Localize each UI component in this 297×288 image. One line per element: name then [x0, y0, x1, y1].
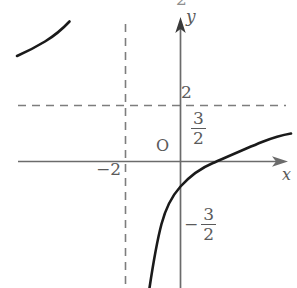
plot-canvas	[0, 0, 297, 288]
y-tick-label-two: 2	[181, 84, 192, 101]
x-axis-label: x	[282, 167, 291, 183]
function-graph-figure: 2 y x O −2 2 3 2 − 3 2	[0, 0, 297, 288]
curve-left-branch	[17, 22, 70, 57]
x-tick-label-negative-two: −2	[96, 161, 121, 178]
x-intercept-fraction-label: 3 2	[188, 110, 206, 147]
origin-label: O	[156, 138, 169, 154]
y-intercept-fraction-label: − 3 2	[184, 206, 216, 243]
curve-right-branch	[150, 134, 292, 288]
y-intercept-fraction-numerator: 3	[201, 206, 216, 224]
y-axis-label: y	[186, 8, 196, 25]
y-intercept-fraction-denominator: 2	[201, 225, 216, 243]
y-intercept-fraction-stack: 3 2	[201, 206, 216, 243]
y-intercept-fraction-sign: −	[184, 216, 198, 233]
x-intercept-fraction-denominator: 2	[191, 129, 206, 147]
x-intercept-fraction-numerator: 3	[191, 110, 206, 128]
x-intercept-fraction-stack: 3 2	[191, 110, 206, 147]
